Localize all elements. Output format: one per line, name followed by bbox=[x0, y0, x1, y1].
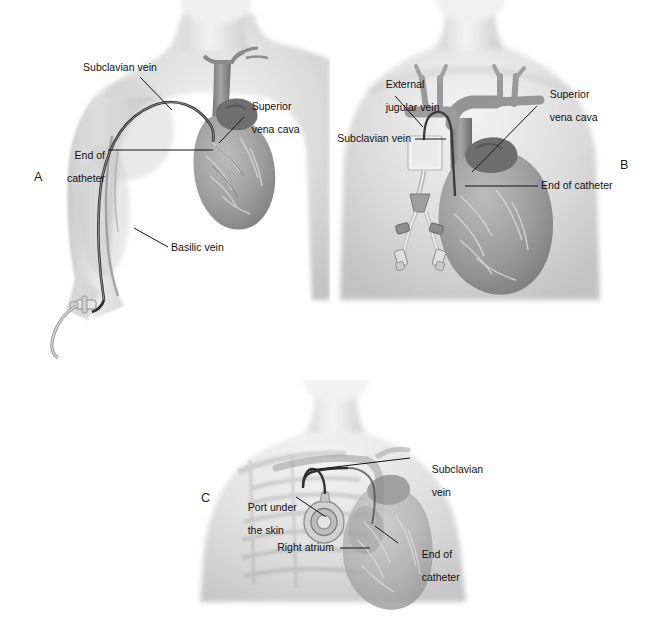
label-superior-vena-cava-b: Superior vena cava bbox=[532, 77, 598, 135]
panel-b: External jugular vein Superior vena cava… bbox=[300, 0, 660, 340]
label-end-of-catheter-c: End of catheter bbox=[404, 537, 460, 595]
label-end-of-catheter-b: End of catheter bbox=[541, 180, 613, 192]
panel-letter-a: A bbox=[34, 170, 43, 184]
label-end-of-catheter-a: End of catheter bbox=[30, 138, 105, 196]
label-end-of-catheter-a-line2: catheter bbox=[67, 172, 105, 184]
label-right-atrium-c: Right atrium bbox=[254, 542, 334, 554]
label-end-of-catheter-c-line2: catheter bbox=[422, 571, 460, 583]
label-superior-vena-cava-a-line1: Superior bbox=[252, 100, 292, 112]
label-subclavian-vein-a: Subclavian vein bbox=[83, 62, 157, 74]
panel-b-artwork bbox=[300, 0, 660, 340]
panel-c: Subclavian vein Port under the skin Righ… bbox=[180, 380, 520, 624]
panel-a: Subclavian vein Superior vena cava End o… bbox=[0, 0, 330, 360]
label-subclavian-vein-b: Subclavian vein bbox=[318, 133, 411, 145]
label-external-jugular-vein-b-line2: jugular vein bbox=[386, 101, 440, 113]
label-superior-vena-cava-a-line2: vena cava bbox=[252, 123, 300, 135]
label-subclavian-vein-c-line1: Subclavian bbox=[432, 463, 484, 475]
label-port-under-the-skin-c-line2: the skin bbox=[248, 524, 284, 536]
label-superior-vena-cava-a: Superior vena cava bbox=[234, 89, 300, 147]
medical-illustration-figure: Subclavian vein Superior vena cava End o… bbox=[0, 0, 660, 624]
label-external-jugular-vein-b-line1: External bbox=[386, 78, 425, 90]
label-superior-vena-cava-b-line1: Superior bbox=[550, 88, 590, 100]
panel-letter-b: B bbox=[620, 158, 629, 172]
label-superior-vena-cava-b-line2: vena cava bbox=[550, 111, 598, 123]
catheter-dressing bbox=[408, 136, 442, 170]
label-subclavian-vein-c-line2: vein bbox=[432, 486, 451, 498]
label-port-under-the-skin-c: Port under the skin bbox=[230, 490, 297, 548]
catheter-hub bbox=[52, 296, 96, 358]
label-port-under-the-skin-c-line1: Port under bbox=[248, 501, 297, 513]
label-subclavian-vein-c: Subclavian vein bbox=[414, 452, 483, 510]
label-end-of-catheter-c-line1: End of bbox=[422, 548, 452, 560]
label-end-of-catheter-a-line1: End of bbox=[75, 149, 105, 161]
label-external-jugular-vein-b: External jugular vein bbox=[368, 67, 440, 125]
label-basilic-vein-a: Basilic vein bbox=[171, 242, 224, 254]
panel-letter-c: C bbox=[201, 491, 210, 505]
